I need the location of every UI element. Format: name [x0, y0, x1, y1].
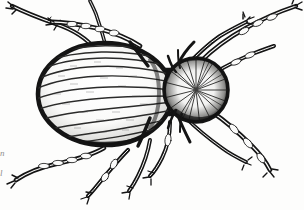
margin-note-line-2: l	[0, 169, 7, 178]
abdomen	[29, 39, 172, 150]
illustration-plate: n l Engraved line illustration of a mite…	[0, 0, 304, 210]
leg-right-hindleg	[212, 112, 278, 177]
beetle-engraving	[0, 0, 304, 210]
margin-note-line-1: n	[0, 149, 7, 158]
leg-left-hindleg	[7, 148, 104, 188]
leg-right-lowerleg	[186, 118, 252, 170]
